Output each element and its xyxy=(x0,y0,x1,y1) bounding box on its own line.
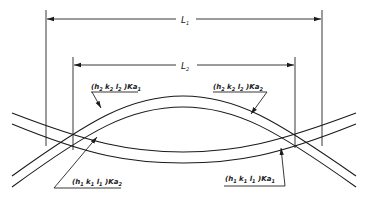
l1-label: L1 xyxy=(181,15,189,26)
l2-label: L2 xyxy=(181,61,189,72)
upper-curve-inner xyxy=(12,107,356,187)
label-lower-right: (h1 k1 l1 )Ka1 xyxy=(225,175,275,184)
lower-curve-upper xyxy=(12,113,356,152)
label-upper-right: (h2 k2 l2 )Ka2 xyxy=(213,83,263,92)
label-upper-left: (h2 k2 l2 )Ka1 xyxy=(91,83,141,92)
beam-curvature-diagram: L1 L2 (h2 k2 l2 )Ka1 (h2 k2 l2 )Ka2 (h1 … xyxy=(0,0,366,198)
leader-lower-right xyxy=(281,148,285,186)
label-lower-left: (h1 k1 l1 )Ka2 xyxy=(72,178,122,187)
leader-upper-right xyxy=(251,92,267,114)
leader-upper-left xyxy=(92,92,101,108)
upper-curve-outer xyxy=(12,96,356,176)
lower-curve-lower xyxy=(12,124,356,163)
